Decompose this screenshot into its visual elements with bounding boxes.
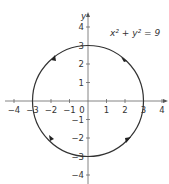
x-tick-label: −2 <box>45 105 58 115</box>
x-axis-arrow-icon <box>163 99 168 103</box>
x-tick-label: 4 <box>159 105 164 115</box>
y-axis-arrow-icon <box>86 12 90 17</box>
y-tick-label: −1 <box>71 115 84 125</box>
x-tick-label: 1 <box>104 105 109 115</box>
arrow-icon <box>121 57 127 62</box>
y-tick-label: −2 <box>71 133 84 143</box>
chart-svg: −4−3−2−101234−4−3−2−11234 y x² + y² = 9 <box>0 0 169 184</box>
arrow-icon <box>49 135 54 141</box>
chart: −4−3−2−101234−4−3−2−11234 y x² + y² = 9 <box>0 0 169 184</box>
y-axis-label: y <box>80 11 87 21</box>
y-tick-label: 1 <box>79 78 84 88</box>
y-tick-label: −4 <box>71 170 84 180</box>
arrow-icon <box>125 137 131 143</box>
y-tick-label: 4 <box>79 22 84 32</box>
x-tick-label: −1 <box>63 105 76 115</box>
equation-label: x² + y² = 9 <box>109 28 160 38</box>
x-tick-label: 2 <box>122 105 127 115</box>
x-tick-label: 0 <box>79 105 84 115</box>
x-tick-label: −4 <box>8 105 21 115</box>
direction-arrows <box>49 55 131 143</box>
y-tick-label: 2 <box>79 59 84 69</box>
